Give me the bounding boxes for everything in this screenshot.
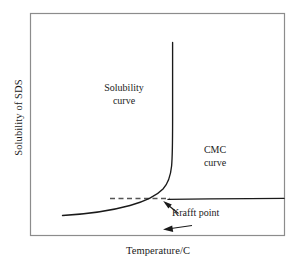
krafft-point-annotation: Krafft point (172, 207, 248, 220)
cmc-annotation-line-1: CMC (186, 144, 244, 157)
chart-canvas (0, 0, 299, 266)
x-axis-label: Temperature/C (30, 245, 286, 256)
y-axis-label: Solubility of SDS (13, 58, 24, 178)
plot-frame (31, 14, 285, 236)
solubility-annotation-line-1: Solubility (88, 82, 160, 95)
cmc-curve-annotation: CMC curve (186, 144, 244, 169)
figure-container: Solubility of SDS Temperature/C Solubili… (0, 0, 299, 266)
cmc-annotation-line-2: curve (186, 157, 244, 170)
solubility-annotation-line-2: curve (88, 95, 160, 108)
solubility-curve-annotation: Solubility curve (88, 82, 160, 107)
